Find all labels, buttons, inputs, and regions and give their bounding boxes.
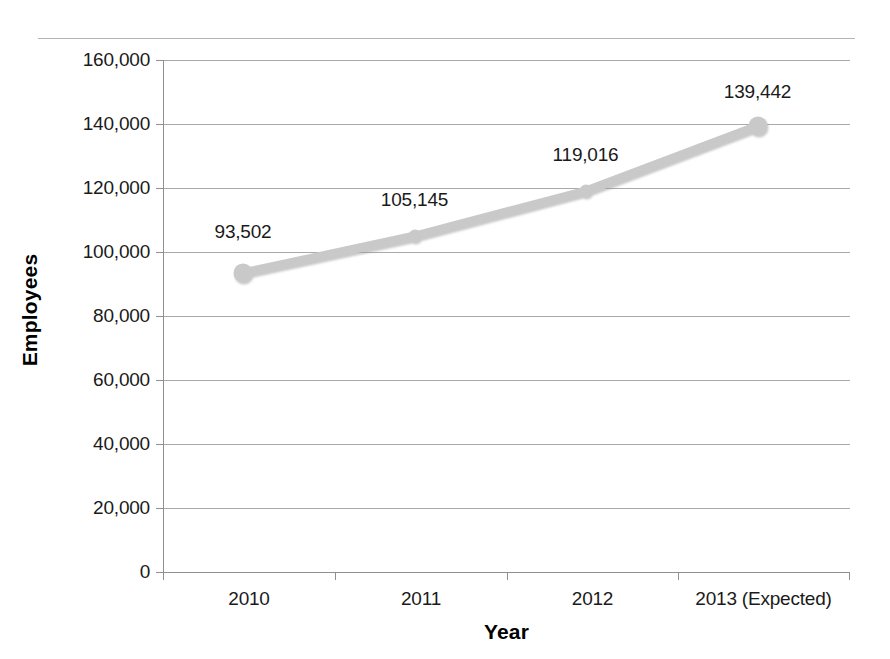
x-tick-label-2012: 2012 <box>507 588 678 610</box>
x-tick-mark-2 <box>507 572 508 580</box>
plot-area <box>163 60 850 572</box>
x-tick-mark-3 <box>678 572 679 580</box>
y-tick-label-0: 0 <box>30 562 150 581</box>
y-tick-mark-60000 <box>156 380 163 381</box>
y-tick-mark-160000 <box>156 60 163 61</box>
x-tick-label-2011: 2011 <box>335 588 507 610</box>
gridline-80000 <box>163 316 850 317</box>
y-tick-label-140000: 140,000 <box>30 114 150 133</box>
employees-line-chart: 160,000 140,000 120,000 100,000 80,000 6… <box>0 0 890 659</box>
y-tick-mark-0 <box>156 572 163 573</box>
y-tick-mark-20000 <box>156 508 163 509</box>
y-tick-mark-80000 <box>156 316 163 317</box>
data-label-2013: 139,442 <box>680 82 835 101</box>
x-tick-mark-0 <box>163 572 164 580</box>
gridline-160000 <box>163 60 850 61</box>
y-tick-mark-40000 <box>156 444 163 445</box>
gridline-60000 <box>163 380 850 381</box>
data-label-2010: 93,502 <box>178 222 308 241</box>
top-divider-rule <box>38 38 855 39</box>
x-tick-mark-1 <box>335 572 336 580</box>
x-tick-mark-4 <box>849 572 850 580</box>
y-tick-label-120000: 120,000 <box>30 178 150 197</box>
y-tick-mark-140000 <box>156 124 163 125</box>
data-label-2011: 105,145 <box>337 190 492 209</box>
y-tick-label-40000: 40,000 <box>30 434 150 453</box>
gridline-100000 <box>163 252 850 253</box>
data-label-2012: 119,016 <box>508 145 663 164</box>
gridline-140000 <box>163 124 850 125</box>
y-tick-label-80000: 80,000 <box>30 306 150 325</box>
x-tick-label-2010: 2010 <box>163 588 335 610</box>
y-tick-mark-100000 <box>156 252 163 253</box>
y-axis-line <box>163 60 164 573</box>
y-tick-label-100000: 100,000 <box>30 242 150 261</box>
y-tick-mark-120000 <box>156 188 163 189</box>
y-axis-title: Employees <box>18 210 42 410</box>
x-tick-label-2013-expected: 2013 (Expected) <box>678 588 849 610</box>
y-tick-label-160000: 160,000 <box>30 50 150 69</box>
y-tick-label-60000: 60,000 <box>30 370 150 389</box>
y-tick-label-20000: 20,000 <box>30 498 150 517</box>
x-axis-title: Year <box>163 620 850 644</box>
gridline-120000 <box>163 188 850 189</box>
gridline-40000 <box>163 444 850 445</box>
gridline-20000 <box>163 508 850 509</box>
